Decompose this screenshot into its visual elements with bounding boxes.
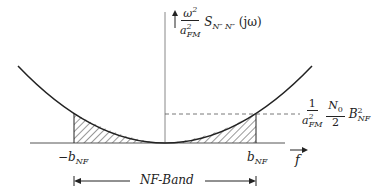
band-label: NF-Band — [140, 173, 194, 187]
left-band-label: −bNF — [58, 150, 88, 166]
y-arrowhead-icon — [172, 10, 178, 16]
x-axis-label: f — [295, 152, 300, 167]
band-arrowhead-left-icon — [74, 178, 81, 184]
hatched-area-right — [165, 113, 256, 143]
y-axis-label: ω2 a2FM SN″ N″ (jω) — [180, 4, 262, 41]
noise-level-label: 1 a2FM N0 2 B2NF — [302, 98, 370, 131]
hatched-area-left — [74, 113, 165, 143]
right-band-label: bNF — [247, 150, 267, 166]
f-arrowhead-icon — [302, 147, 308, 153]
band-arrowhead-right-icon — [249, 178, 256, 184]
